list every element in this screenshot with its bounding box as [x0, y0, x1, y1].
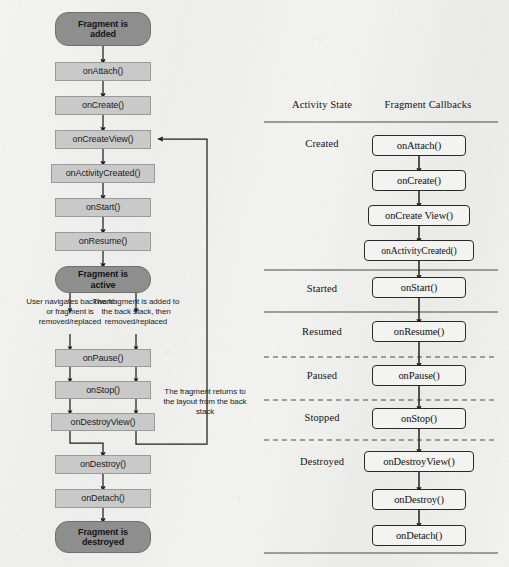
table-callback-ondestroy-label: onDestroy() [394, 494, 444, 505]
table-state-paused-label: Paused [307, 370, 337, 381]
table-callback-onresume-label: onResume() [394, 326, 444, 337]
table-state-created: Created [262, 138, 382, 149]
table-state-resumed: Resumed [262, 326, 382, 337]
table-callback-onpause-label: onPause() [398, 370, 439, 381]
table-header-fragment-callbacks-label: Fragment Callbacks [385, 99, 472, 110]
table-callback-onattach-label: onAttach() [397, 140, 441, 151]
table-callback-onactivitycreated-label: onActivityCreated() [381, 245, 456, 256]
table-callback-onattach: onAttach() [372, 135, 466, 156]
table-state-stopped-label: Stopped [304, 412, 339, 423]
table-callback-oncreateview: onCreate View() [368, 205, 470, 226]
table-callback-onstop-label: onStop() [401, 413, 437, 424]
table-callback-onpause: onPause() [372, 365, 466, 386]
table-callback-oncreate: onCreate() [372, 170, 466, 191]
table-state-created-label: Created [305, 138, 338, 149]
table-state-paused: Paused [262, 370, 382, 381]
table-header-activity-state-label: Activity State [292, 99, 352, 110]
table-callback-onstop: onStop() [372, 408, 466, 429]
table-state-resumed-label: Resumed [302, 326, 342, 337]
table-callback-onstart: onStart() [372, 277, 466, 298]
table-callback-ondestroyview: onDestroyView() [364, 451, 474, 472]
table-callback-ondestroy: onDestroy() [372, 489, 466, 510]
table-callback-onactivitycreated: onActivityCreated() [364, 240, 474, 261]
table-state-started-label: Started [307, 283, 337, 294]
table-callback-onstart-label: onStart() [401, 282, 437, 293]
table-callback-oncreateview-label: onCreate View() [385, 210, 453, 221]
table-header-fragment-callbacks: Fragment Callbacks [358, 99, 498, 110]
table-callback-onresume: onResume() [372, 321, 466, 342]
table-state-started: Started [262, 283, 382, 294]
table-callback-oncreate-label: onCreate() [397, 175, 441, 186]
table-state-stopped: Stopped [262, 412, 382, 423]
table-callback-ondestroyview-label: onDestroyView() [383, 456, 454, 467]
table-callback-ondetach-label: onDetach() [396, 530, 442, 541]
figure-canvas: Fragment isadded onAttach() onCreate() o… [0, 0, 509, 567]
table-state-destroyed-label: Destroyed [300, 456, 344, 467]
table-callback-ondetach: onDetach() [372, 525, 466, 546]
